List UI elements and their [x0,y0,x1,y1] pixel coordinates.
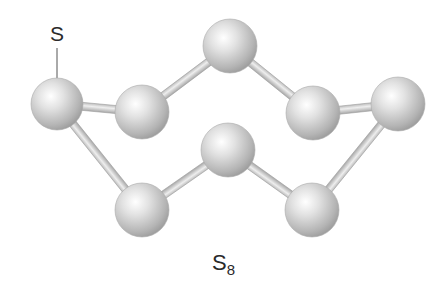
formula-label: S8 [212,250,235,278]
sulfur-atom [286,86,340,140]
sulfur-atom [371,77,425,131]
sulfur-atom [115,85,169,139]
sulfur-atom [115,183,169,237]
formula-base: S [212,250,227,275]
sulfur-atom [31,78,83,130]
sulfur-atom [201,123,255,177]
sulfur-atom [203,19,257,73]
sulfur-atom [285,183,339,237]
atom-label: S [50,22,64,46]
atoms-group [31,19,425,237]
formula-subscript: 8 [227,261,235,278]
s8-molecule-diagram: S S8 [0,0,441,296]
